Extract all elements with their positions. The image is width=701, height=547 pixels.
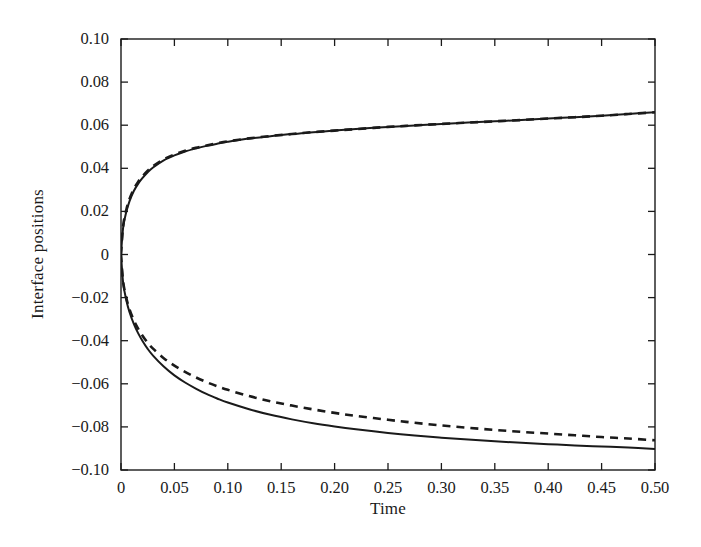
x-tick-label-1: 0.05: [160, 478, 188, 498]
y-tick-label-9: 0.08: [0, 72, 109, 92]
x-axis-title: Time: [121, 499, 655, 519]
x-tick-label-10: 0.50: [641, 478, 669, 498]
x-tick-label-5: 0.25: [374, 478, 402, 498]
y-tick-label-3: −0.04: [0, 331, 109, 351]
x-tick-label-0: 0: [117, 478, 125, 498]
y-tick-label-6: 0.02: [0, 201, 109, 221]
y-tick-label-1: −0.08: [0, 417, 109, 437]
x-tick-label-3: 0.15: [267, 478, 295, 498]
y-tick-label-8: 0.06: [0, 115, 109, 135]
plot-frame: [121, 39, 655, 470]
x-tick-label-6: 0.30: [427, 478, 455, 498]
x-tick-label-9: 0.45: [587, 478, 615, 498]
y-tick-label-4: −0.02: [0, 288, 109, 308]
y-tick-label-7: 0.04: [0, 158, 109, 178]
y-tick-label-10: 0.10: [0, 29, 109, 49]
x-tick-label-2: 0.10: [214, 478, 242, 498]
y-tick-label-0: −0.10: [0, 460, 109, 480]
y-tick-label-2: −0.06: [0, 374, 109, 394]
y-tick-label-5: 0: [0, 245, 109, 265]
chart-figure: Interface positions Time −0.10−0.08−0.06…: [0, 0, 701, 547]
x-tick-label-7: 0.35: [481, 478, 509, 498]
x-tick-label-4: 0.20: [320, 478, 348, 498]
x-tick-label-8: 0.40: [534, 478, 562, 498]
